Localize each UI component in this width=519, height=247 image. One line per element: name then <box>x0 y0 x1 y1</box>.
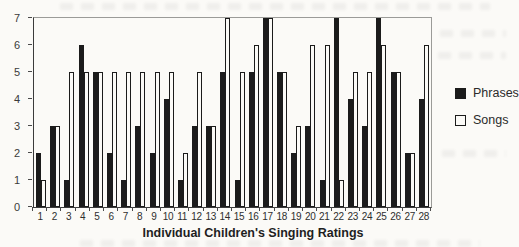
legend-item-songs: Songs <box>455 113 519 127</box>
category-slot-10 <box>162 18 176 207</box>
y-tick-mark <box>28 71 32 72</box>
bar-songs-14 <box>225 18 230 207</box>
category-slot-22 <box>332 18 346 207</box>
scan-ghosting-artifact <box>440 30 506 37</box>
category-slot-9 <box>147 18 161 207</box>
y-tick-mark <box>28 179 32 180</box>
y-tick-mark <box>28 44 32 45</box>
plot-area <box>33 17 432 208</box>
category-slot-15 <box>233 18 247 207</box>
x-tick-label: 28 <box>417 211 431 223</box>
bar-songs-26 <box>396 72 401 207</box>
bar-songs-19 <box>296 126 301 207</box>
y-tick-label: 7 <box>0 12 20 24</box>
y-tick-mark <box>28 17 32 18</box>
category-slot-16 <box>247 18 261 207</box>
scan-ghosting-artifact <box>80 240 480 247</box>
x-tick-label: 14 <box>218 211 232 223</box>
bar-phrases-22 <box>334 18 339 207</box>
x-tick-label: 21 <box>317 211 331 223</box>
x-tick-label: 27 <box>403 211 417 223</box>
bar-songs-24 <box>367 72 372 207</box>
y-tick-label: 1 <box>0 174 20 186</box>
category-slot-26 <box>388 18 402 207</box>
category-slot-17 <box>261 18 275 207</box>
x-tick-label: 26 <box>388 211 402 223</box>
x-tick-label: 19 <box>289 211 303 223</box>
x-tick-label: 23 <box>346 211 360 223</box>
bar-songs-15 <box>240 72 245 207</box>
bar-songs-28 <box>424 45 429 207</box>
x-tick-label: 13 <box>204 211 218 223</box>
bar-songs-10 <box>169 72 174 207</box>
y-tick-mark <box>28 125 32 126</box>
y-tick-label: 0 <box>0 201 20 213</box>
x-tick-label: 5 <box>90 211 104 223</box>
bar-songs-20 <box>310 45 315 207</box>
bar-songs-21 <box>325 45 330 207</box>
bar-songs-25 <box>381 45 386 207</box>
y-tick-label: 6 <box>0 39 20 51</box>
bar-songs-27 <box>410 153 415 207</box>
x-tick-label: 6 <box>104 211 118 223</box>
category-slot-25 <box>374 18 388 207</box>
bar-songs-11 <box>183 153 188 207</box>
bar-songs-23 <box>353 72 358 207</box>
bars-layer <box>34 18 431 207</box>
songs-swatch-icon <box>455 115 466 126</box>
phrases-swatch-icon <box>455 88 466 99</box>
x-tick-label: 2 <box>47 211 61 223</box>
scan-ghosting-artifact <box>438 52 506 59</box>
category-slot-13 <box>204 18 218 207</box>
y-tick-label: 3 <box>0 120 20 132</box>
legend-label: Phrases <box>473 86 519 100</box>
category-slot-27 <box>403 18 417 207</box>
category-slot-23 <box>346 18 360 207</box>
bar-songs-4 <box>84 72 89 207</box>
x-tick-label: 15 <box>232 211 246 223</box>
bar-songs-22 <box>339 180 344 207</box>
category-slot-7 <box>119 18 133 207</box>
bar-songs-18 <box>282 72 287 207</box>
x-axis-labels: 1234567891011121314151617181920212223242… <box>33 211 431 223</box>
x-tick-label: 22 <box>332 211 346 223</box>
x-tick-label: 17 <box>260 211 274 223</box>
category-slot-28 <box>417 18 431 207</box>
category-slot-1 <box>34 18 48 207</box>
scan-ghosting-artifact <box>442 150 506 157</box>
legend-item-phrases: Phrases <box>455 86 519 100</box>
bar-songs-6 <box>112 72 117 207</box>
y-tick-label: 4 <box>0 93 20 105</box>
category-slot-8 <box>133 18 147 207</box>
category-slot-12 <box>190 18 204 207</box>
bar-songs-2 <box>55 126 60 207</box>
x-tick-label: 18 <box>275 211 289 223</box>
y-tick-label: 5 <box>0 66 20 78</box>
category-slot-20 <box>303 18 317 207</box>
bar-songs-12 <box>197 72 202 207</box>
bar-songs-13 <box>211 126 216 207</box>
category-slot-24 <box>360 18 374 207</box>
x-tick-label: 24 <box>360 211 374 223</box>
category-slot-18 <box>275 18 289 207</box>
x-tick-label: 10 <box>161 211 175 223</box>
legend-label: Songs <box>473 113 508 127</box>
x-tick-label: 8 <box>133 211 147 223</box>
x-tick-label: 25 <box>374 211 388 223</box>
y-axis: 01234567 <box>0 18 33 207</box>
bar-songs-5 <box>98 72 103 207</box>
x-tick-label: 1 <box>33 211 47 223</box>
bar-songs-8 <box>140 72 145 207</box>
bar-songs-7 <box>126 72 131 207</box>
x-tick-label: 7 <box>118 211 132 223</box>
bar-songs-17 <box>268 18 273 207</box>
bar-songs-16 <box>254 45 259 207</box>
bar-songs-1 <box>41 180 46 207</box>
x-tick-label: 20 <box>303 211 317 223</box>
x-tick-label: 3 <box>61 211 75 223</box>
bar-songs-3 <box>69 72 74 207</box>
x-axis-title: Individual Children's Singing Ratings <box>0 226 506 240</box>
x-tick-label: 9 <box>147 211 161 223</box>
category-slot-2 <box>48 18 62 207</box>
